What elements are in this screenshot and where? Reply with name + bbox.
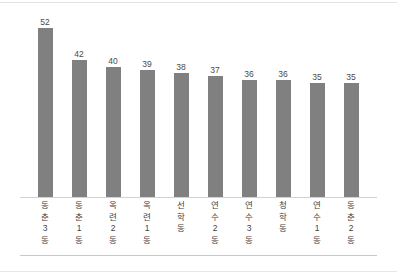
bar-rect (72, 60, 87, 197)
bar-value-label: 40 (108, 56, 117, 66)
bar-item: 36 (266, 8, 300, 197)
bar-value-label: 39 (142, 59, 151, 69)
x-axis-label-glyph: 청 (279, 200, 287, 212)
bar-rect (344, 83, 359, 197)
x-axis-label-glyph: 옥 (109, 200, 117, 212)
bar-item: 37 (198, 8, 232, 197)
x-axis-label-glyph: 3 (247, 223, 252, 235)
x-axis-label-glyph: 동 (347, 200, 355, 212)
bar-value-label: 36 (278, 69, 287, 79)
x-axis-label-glyph: 동 (143, 235, 151, 247)
x-axis-label-glyph: 3 (43, 223, 48, 235)
x-axis-label-glyph: 연 (211, 200, 219, 212)
bar-value-label: 35 (346, 72, 355, 82)
x-axis-label-glyph: 동 (313, 235, 321, 247)
x-axis-label-glyph: 춘 (41, 212, 49, 224)
x-axis-label-glyph: 춘 (75, 212, 83, 224)
bar-rect (38, 28, 53, 197)
bar-series: 52424039383736363535 (28, 8, 368, 197)
bar-rect (174, 73, 189, 197)
x-axis-label-glyph: 동 (41, 235, 49, 247)
bar-item: 42 (62, 8, 96, 197)
bar-item: 39 (130, 8, 164, 197)
x-axis-label-glyph: 선 (177, 200, 185, 212)
x-axis-label-glyph: 수 (313, 212, 321, 224)
bar-item: 36 (232, 8, 266, 197)
page-bottom-divider (0, 271, 397, 272)
x-axis-line (20, 197, 377, 198)
x-axis-label: 동춘2동 (334, 200, 368, 256)
bar-value-label: 42 (74, 49, 83, 59)
bar-item: 35 (334, 8, 368, 197)
chart-bottom-border (20, 255, 377, 256)
x-axis-label-glyph: 1 (145, 223, 150, 235)
x-axis-label-glyph: 연 (313, 200, 321, 212)
x-axis-label-glyph: 2 (213, 223, 218, 235)
bar-value-label: 37 (210, 65, 219, 75)
x-axis-label-glyph: 1 (315, 223, 320, 235)
bar-value-label: 52 (40, 17, 49, 27)
x-axis-label: 청학동 (266, 200, 300, 256)
x-axis-label-glyph: 동 (279, 223, 287, 235)
bar-rect (106, 67, 121, 197)
bar-item: 35 (300, 8, 334, 197)
bar-rect (242, 80, 257, 197)
x-axis-label: 동춘1동 (62, 200, 96, 256)
x-axis-label-glyph: 동 (347, 235, 355, 247)
x-axis-label: 옥련2동 (96, 200, 130, 256)
x-axis-label-glyph: 2 (111, 223, 116, 235)
x-axis-label-glyph: 동 (211, 235, 219, 247)
top-divider (0, 2, 397, 3)
x-axis-label: 연수3동 (232, 200, 266, 256)
x-axis-label: 연수1동 (300, 200, 334, 256)
x-axis-label-glyph: 수 (245, 212, 253, 224)
x-axis-label: 선학동 (164, 200, 198, 256)
x-axis-labels: 동춘3동동춘1동옥련2동옥련1동선학동연수2동연수3동청학동연수1동동춘2동 (28, 200, 368, 256)
bar-rect (276, 80, 291, 197)
x-axis-label-glyph: 동 (245, 235, 253, 247)
x-axis-label-glyph: 동 (75, 235, 83, 247)
x-axis-label-glyph: 수 (211, 212, 219, 224)
x-axis-label-glyph: 학 (177, 212, 185, 224)
x-axis-label: 옥련1동 (130, 200, 164, 256)
bar-item: 52 (28, 8, 62, 197)
x-axis-label: 연수2동 (198, 200, 232, 256)
x-axis-label-glyph: 옥 (143, 200, 151, 212)
x-axis-label-glyph: 2 (349, 223, 354, 235)
x-axis-label-glyph: 1 (77, 223, 82, 235)
x-axis-label-glyph: 련 (143, 212, 151, 224)
bar-rect (140, 70, 155, 197)
bar-value-label: 36 (244, 69, 253, 79)
bar-item: 38 (164, 8, 198, 197)
x-axis-label-glyph: 학 (279, 212, 287, 224)
x-axis-label: 동춘3동 (28, 200, 62, 256)
bar-rect (310, 83, 325, 197)
x-axis-label-glyph: 동 (109, 235, 117, 247)
bar-value-label: 38 (176, 62, 185, 72)
x-axis-label-glyph: 동 (177, 223, 185, 235)
bar-item: 40 (96, 8, 130, 197)
x-axis-label-glyph: 연 (245, 200, 253, 212)
bar-value-label: 35 (312, 72, 321, 82)
x-axis-label-glyph: 련 (109, 212, 117, 224)
x-axis-label-glyph: 동 (41, 200, 49, 212)
x-axis-label-glyph: 춘 (347, 212, 355, 224)
x-axis-label-glyph: 동 (75, 200, 83, 212)
bar-rect (208, 76, 223, 197)
